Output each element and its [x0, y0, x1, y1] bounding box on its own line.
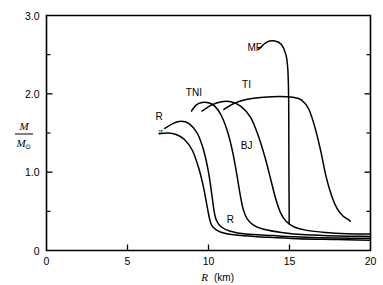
curve-label-R: R: [155, 111, 162, 122]
y-tick-label-3: 3.0: [25, 10, 40, 22]
x-tick-label-15: 15: [284, 255, 296, 267]
y-axis-numerator: M: [18, 120, 29, 132]
curve-label-MF: MF: [247, 42, 261, 53]
x-tick-label-5: 5: [125, 255, 131, 267]
curve-label-BJ: BJ: [241, 140, 253, 151]
y-tick-label-2: 2.0: [25, 88, 40, 100]
curve-label-TI: TI: [242, 79, 251, 90]
y-tick-label-1: 1.0: [25, 166, 40, 178]
curve-label-pi: π: [158, 126, 163, 136]
neutron-star-mass-radius-chart: 05101520 01.02.03.0 πRTNITIMFBJR R (km) …: [0, 0, 383, 285]
mass-radius-figure: 05101520 01.02.03.0 πRTNITIMFBJR R (km) …: [0, 0, 383, 285]
curve-label-TNI: TNI: [186, 87, 202, 98]
x-tick-label-20: 20: [365, 255, 377, 267]
x-axis-title-symbol: R: [200, 271, 208, 283]
chart-background: [0, 0, 383, 285]
y-axis-denominator-subscript: ⊙: [25, 143, 31, 151]
x-axis-title-unit: (km): [214, 272, 234, 283]
x-tick-label-0: 0: [44, 255, 50, 267]
curve-label-R: R: [227, 214, 234, 225]
x-axis-title: R (km): [200, 271, 234, 283]
x-tick-label-10: 10: [203, 255, 215, 267]
y-tick-label-0: 0: [34, 245, 40, 257]
